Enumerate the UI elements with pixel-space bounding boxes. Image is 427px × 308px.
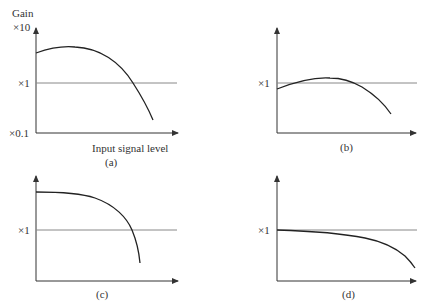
gain-curve: [277, 230, 415, 268]
panel-a: [36, 28, 178, 133]
tick-label-top: ×10: [13, 22, 30, 33]
panel-b: [277, 28, 417, 133]
caption-c: (c): [96, 289, 108, 300]
gain-curves-diagram: [0, 0, 427, 308]
gain-curve: [36, 192, 140, 263]
y-axis-title: Gain: [12, 8, 33, 19]
panel-c: [36, 176, 178, 281]
panel-d: [277, 176, 417, 281]
tick-label-unity: ×1: [258, 78, 270, 89]
caption-d: (d): [342, 289, 355, 300]
tick-label-unity: ×1: [18, 225, 30, 236]
caption-a: (a): [105, 157, 117, 168]
x-axis-title: Input signal level: [92, 143, 168, 154]
tick-label-bottom: ×0.1: [9, 128, 29, 139]
tick-label-unity: ×1: [258, 225, 270, 236]
tick-label-unity: ×1: [18, 78, 30, 89]
caption-b: (b): [340, 142, 353, 153]
